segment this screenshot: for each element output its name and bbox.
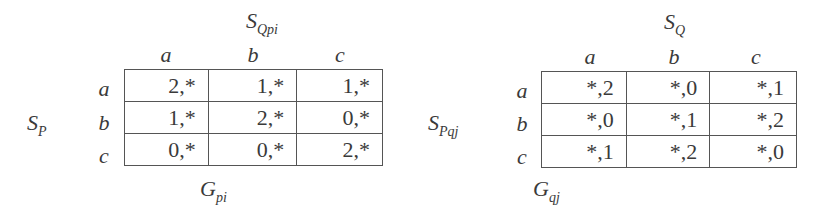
game-label: Gpi [200, 178, 227, 200]
payoff-cell: *,1 [542, 136, 627, 168]
col-player-label: SQ [664, 11, 685, 33]
col-player-label: SQpi [246, 10, 278, 32]
row-label-c: c [94, 145, 114, 167]
payoff-matrix: 2,* 1,* 1,* 1,* 2,* 0,* 0,* 0,* 2,* [124, 69, 383, 166]
col-label-a: a [156, 44, 176, 66]
payoff-cell: 1,* [297, 70, 383, 102]
row-label-c: c [512, 146, 532, 168]
payoff-cell: *,2 [710, 104, 797, 136]
payoff-cell: 0,* [297, 102, 383, 134]
col-label-b: b [664, 46, 684, 68]
payoff-cell: *,0 [626, 72, 710, 104]
row-label-a: a [94, 78, 114, 100]
payoff-matrix: *,2 *,0 *,1 *,0 *,1 *,2 *,1 *,2 *,0 [541, 71, 797, 168]
table-row: *,0 *,1 *,2 [542, 104, 797, 136]
payoff-cell: 0,* [125, 134, 209, 166]
col-label-b: b [243, 44, 263, 66]
row-label-b: b [94, 112, 114, 134]
payoff-cell: 1,* [208, 70, 297, 102]
row-label-b: b [512, 113, 532, 135]
payoff-cell: 1,* [125, 102, 209, 134]
payoff-cell: 2,* [297, 134, 383, 166]
table-row: 2,* 1,* 1,* [125, 70, 383, 102]
payoff-cell: *,0 [542, 104, 627, 136]
payoff-cell: 2,* [208, 102, 297, 134]
row-player-label: SPqj [428, 112, 458, 134]
payoff-cell: *,2 [542, 72, 627, 104]
payoff-cell: *,0 [710, 136, 797, 168]
payoff-cell: *,2 [626, 136, 710, 168]
row-label-a: a [512, 80, 532, 102]
table-row: *,2 *,0 *,1 [542, 72, 797, 104]
payoff-cell: 2,* [125, 70, 209, 102]
game-label: Gqj [533, 178, 560, 200]
col-label-c: c [330, 44, 350, 66]
payoff-cell: 0,* [208, 134, 297, 166]
payoff-cell: *,1 [710, 72, 797, 104]
row-player-label: SP [27, 112, 47, 134]
col-label-c: c [746, 46, 766, 68]
payoff-cell: *,1 [626, 104, 710, 136]
table-row: *,1 *,2 *,0 [542, 136, 797, 168]
table-row: 1,* 2,* 0,* [125, 102, 383, 134]
table-row: 0,* 0,* 2,* [125, 134, 383, 166]
col-label-a: a [580, 46, 600, 68]
